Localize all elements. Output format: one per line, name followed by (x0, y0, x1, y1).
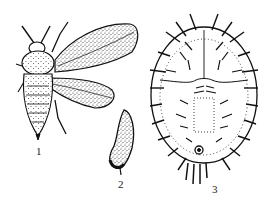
insect-illustration-figure: 1 2 3 (0, 0, 269, 206)
panel-label-egg: 2 (118, 179, 124, 190)
pupa-drawing (150, 14, 258, 184)
egg-drawing (110, 110, 134, 175)
illustration-svg (0, 0, 269, 206)
panel-label-adult: 1 (36, 146, 42, 157)
panel-label-pupa: 3 (212, 184, 218, 195)
